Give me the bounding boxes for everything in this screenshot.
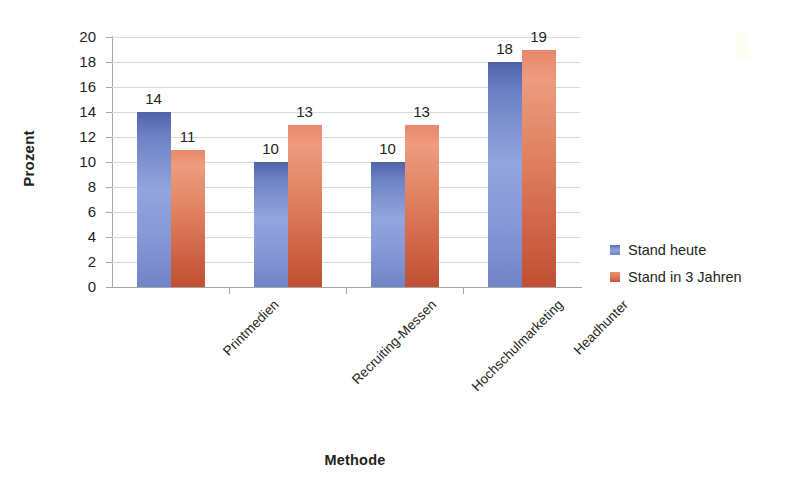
legend-item[interactable]: Stand in 3 Jahren — [610, 263, 742, 290]
bar-value-label: 19 — [514, 29, 564, 44]
x-axis-tick — [229, 288, 230, 294]
bar-value-label: 11 — [163, 129, 213, 144]
x-axis-line — [112, 287, 582, 288]
x-axis-category-label: Recruiting-Messen — [348, 297, 438, 387]
y-axis-tick-label: 16 — [36, 79, 96, 94]
y-axis-tick-label: 2 — [36, 254, 96, 269]
y-axis-tick-label: 20 — [36, 29, 96, 44]
x-axis-category-label: Hochschulmarketing — [468, 297, 565, 394]
y-axis-tick-label: 10 — [36, 154, 96, 169]
bar — [288, 125, 322, 288]
plot-area: 1411101310131819 — [112, 37, 580, 287]
bar-value-label: 13 — [397, 104, 447, 119]
legend: Stand heuteStand in 3 Jahren — [610, 236, 742, 290]
legend-swatch-icon — [610, 272, 620, 282]
y-axis-tick-label: 18 — [36, 54, 96, 69]
y-axis-tick-label: 8 — [36, 179, 96, 194]
x-axis-category-label: Printmedien — [220, 297, 282, 359]
y-axis-title: Prozent — [20, 114, 37, 204]
bar-value-label: 13 — [280, 104, 330, 119]
x-axis-category-label: Headhunter — [570, 297, 631, 358]
bar — [405, 125, 439, 288]
legend-item-label: Stand heute — [628, 242, 706, 258]
legend-swatch-icon — [610, 245, 620, 255]
y-axis-tick-label: 14 — [36, 104, 96, 119]
y-axis-tick-label: 6 — [36, 204, 96, 219]
bar — [488, 62, 522, 287]
legend-item[interactable]: Stand heute — [610, 236, 742, 263]
y-axis-tick-label: 4 — [36, 229, 96, 244]
bar — [522, 50, 556, 288]
x-axis-tick — [463, 288, 464, 294]
bar — [171, 150, 205, 288]
bar — [371, 162, 405, 287]
y-axis-tick-label: 12 — [36, 129, 96, 144]
x-axis-tick — [346, 288, 347, 294]
legend-item-label: Stand in 3 Jahren — [628, 269, 742, 285]
x-axis-title: Methode — [240, 452, 470, 468]
y-axis-tick-label: 0 — [36, 279, 96, 294]
bar-value-label: 14 — [129, 91, 179, 106]
bar-chart: Prozent 20181614121086420 14111013101318… — [0, 0, 809, 500]
scan-artifact — [735, 33, 749, 59]
gridline — [112, 37, 580, 38]
bar — [254, 162, 288, 287]
